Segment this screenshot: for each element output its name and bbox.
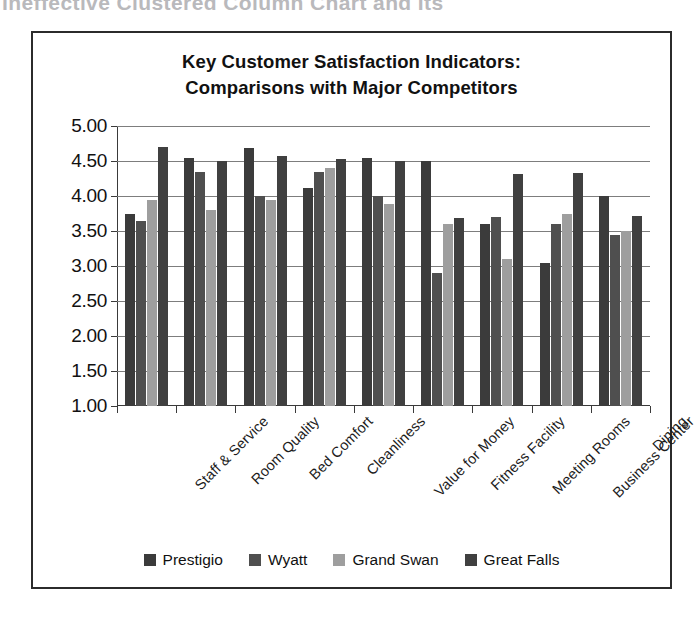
bar bbox=[621, 231, 631, 406]
x-axis-tick bbox=[235, 406, 236, 413]
x-axis-tick bbox=[354, 406, 355, 413]
legend-swatch-icon bbox=[333, 554, 345, 566]
bar bbox=[384, 204, 394, 406]
bar-cluster bbox=[176, 126, 235, 406]
y-axis-label: 3.00 bbox=[71, 255, 107, 277]
bar bbox=[277, 156, 287, 406]
legend-swatch-icon bbox=[144, 554, 156, 566]
bar-cluster bbox=[235, 126, 294, 406]
bar bbox=[195, 172, 205, 407]
bar-cluster bbox=[354, 126, 413, 406]
legend-item: Great Falls bbox=[465, 551, 560, 569]
bar bbox=[562, 214, 572, 407]
legend-item: Prestigio bbox=[144, 551, 223, 569]
bar bbox=[206, 210, 216, 406]
bar bbox=[551, 224, 561, 406]
bar bbox=[362, 158, 372, 407]
bar bbox=[125, 214, 135, 407]
y-axis-label: 2.50 bbox=[71, 290, 107, 312]
bar bbox=[266, 200, 276, 407]
legend-label: Wyatt bbox=[268, 551, 307, 569]
bar bbox=[491, 217, 501, 406]
y-axis-label: 5.00 bbox=[71, 115, 107, 137]
bar-cluster bbox=[413, 126, 472, 406]
legend-item: Wyatt bbox=[249, 551, 307, 569]
legend-label: Prestigio bbox=[163, 551, 223, 569]
bar bbox=[480, 224, 490, 406]
bar bbox=[632, 216, 642, 406]
x-axis-tick bbox=[472, 406, 473, 413]
bar-cluster bbox=[117, 126, 176, 406]
y-axis-label: 2.00 bbox=[71, 325, 107, 347]
bar bbox=[217, 161, 227, 406]
legend-item: Grand Swan bbox=[333, 551, 438, 569]
bar bbox=[610, 235, 620, 407]
x-axis-tick bbox=[176, 406, 177, 413]
y-axis-label: 1.00 bbox=[71, 395, 107, 417]
y-axis-label: 3.50 bbox=[71, 220, 107, 242]
bar bbox=[158, 147, 168, 406]
bar bbox=[373, 196, 383, 406]
cut-off-caption: Ineffective Clustered Column Chart and I… bbox=[0, 0, 697, 17]
bar bbox=[421, 161, 431, 406]
chart-figure-frame: Key Customer Satisfaction Indicators: Co… bbox=[31, 31, 672, 589]
y-axis-label: 4.00 bbox=[71, 185, 107, 207]
x-axis-tick bbox=[591, 406, 592, 413]
bar bbox=[573, 173, 583, 406]
legend-label: Grand Swan bbox=[352, 551, 438, 569]
bar-cluster bbox=[591, 126, 650, 406]
bar bbox=[454, 218, 464, 406]
bar bbox=[147, 200, 157, 407]
bar bbox=[255, 196, 265, 406]
legend-label: Great Falls bbox=[484, 551, 560, 569]
bar-cluster bbox=[295, 126, 354, 406]
screenshot-page: Ineffective Clustered Column Chart and I… bbox=[0, 0, 697, 626]
bar bbox=[395, 161, 405, 406]
bar bbox=[502, 259, 512, 406]
bar bbox=[136, 221, 146, 407]
y-axis-label: 4.50 bbox=[71, 150, 107, 172]
legend-swatch-icon bbox=[249, 554, 261, 566]
legend-swatch-icon bbox=[465, 554, 477, 566]
x-axis-tick bbox=[532, 406, 533, 413]
bar bbox=[314, 172, 324, 407]
chart-title-line-1: Key Customer Satisfaction Indicators: bbox=[33, 49, 670, 75]
bar-cluster bbox=[472, 126, 531, 406]
chart-title-line-2: Comparisons with Major Competitors bbox=[33, 75, 670, 101]
chart-title: Key Customer Satisfaction Indicators: Co… bbox=[33, 49, 670, 102]
bar bbox=[599, 196, 609, 406]
bar bbox=[513, 174, 523, 406]
bar bbox=[184, 158, 194, 407]
x-axis-tick bbox=[295, 406, 296, 413]
plot-area: 5.004.504.003.503.002.502.001.501.00 bbox=[117, 126, 650, 406]
bar bbox=[244, 148, 254, 406]
bar bbox=[336, 159, 346, 406]
bar bbox=[303, 188, 313, 406]
bar bbox=[540, 263, 550, 407]
x-axis-tick bbox=[117, 406, 118, 413]
bar bbox=[443, 224, 453, 406]
y-axis-label: 1.50 bbox=[71, 360, 107, 382]
bar bbox=[325, 168, 335, 406]
x-axis-tick bbox=[650, 406, 651, 413]
chart-legend: PrestigioWyattGrand SwanGreat Falls bbox=[33, 551, 670, 569]
bar bbox=[432, 273, 442, 406]
x-axis-tick bbox=[413, 406, 414, 413]
bar-cluster bbox=[532, 126, 591, 406]
